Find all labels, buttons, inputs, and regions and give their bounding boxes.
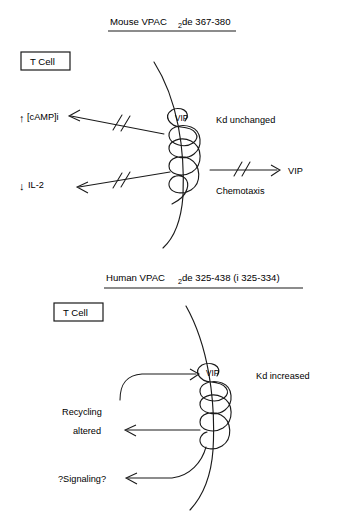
- panel-top-membrane-curve: [154, 62, 183, 248]
- panel-bottom-signaling-arrow-line: [128, 447, 206, 478]
- panel-top-kd-annotation: Kd unchanged: [216, 115, 275, 125]
- panel-top-title-suffix: de 367-380: [182, 16, 231, 27]
- panel-top-t-cell-label: T Cell: [30, 56, 55, 67]
- panel-bottom-signaling-label: ?Signaling?: [58, 474, 106, 484]
- panel-top-camp-label: [cAMP]i: [27, 112, 59, 122]
- panel-top-il2-arrowhead: [77, 182, 88, 193]
- panel-top-title-prefix: Mouse VPAC: [110, 16, 167, 27]
- panel-top-camp-arrowhead: [69, 110, 80, 121]
- panel-top-il2-down-arrow-icon: ↓: [19, 180, 25, 192]
- panel-bottom-title-prefix: Human VPAC: [106, 272, 165, 283]
- panel-top-camp-up-arrow-icon: ↑: [19, 112, 25, 124]
- panel-top-vip-block-slash-2: [242, 162, 250, 176]
- panel-bottom-recycling-arrow-line: [120, 374, 196, 400]
- panel-top-vip-label: VIP: [175, 114, 189, 123]
- panel-bottom-recycling-label-line1: Recycling: [62, 407, 102, 417]
- panel-top-vip-right-label: VIP: [288, 166, 303, 176]
- panel-bottom-t-cell-label: T Cell: [63, 307, 88, 318]
- panel-top-chemotaxis-annotation: Chemotaxis: [216, 186, 265, 196]
- panel-bottom-vip-label: VIP: [206, 369, 220, 378]
- panel-bottom-kd-annotation: Kd increased: [256, 371, 310, 381]
- panel-top-il2-arrow-line: [79, 172, 170, 187]
- panel-top-vip-block-slash-1: [234, 162, 242, 176]
- panel-bottom-recycling-label-line2: altered: [73, 426, 101, 436]
- panel-bottom-title-suffix: de 325-438 (i 325-334): [182, 272, 280, 283]
- panel-bottom-membrane-curve: [186, 306, 214, 510]
- panel-top-camp-block-slash-2: [121, 116, 130, 131]
- diagram-canvas: Mouse VPAC 2 de 367-380 T Cell VIP ↑ [cA…: [0, 0, 341, 521]
- panel-top-camp-arrow-line: [71, 116, 164, 134]
- panel-top-il2-label: IL-2: [28, 180, 44, 190]
- figure-root: Mouse VPAC 2 de 367-380 T Cell VIP ↑ [cA…: [0, 0, 341, 521]
- panel-top-camp-block-slash-1: [113, 115, 122, 130]
